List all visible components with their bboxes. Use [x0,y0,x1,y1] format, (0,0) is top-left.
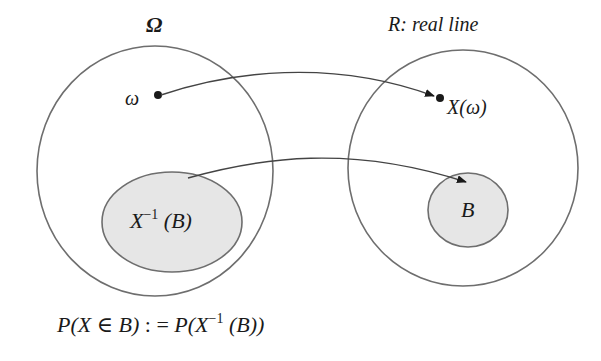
random-variable-diagram: Ω R: real line ω X(ω) X−1 (B) B P(X ∈ B)… [0,0,601,361]
formula-assign: : = [139,312,174,337]
omega-point [154,91,162,99]
formula-rhs-prefix: P(X [174,312,208,337]
preimage-label: X−1 (B) [130,208,192,232]
sample-space-label: Ω [146,14,162,36]
mapping-arrow-point [161,72,434,96]
formula-lhs: P(X ∈ B) [57,312,139,337]
preimage-label-base: X [130,208,143,233]
formula-rhs-exponent: −1 [209,311,224,326]
omega-point-label: ω [125,88,139,108]
preimage-label-arg: (B) [158,208,192,233]
x-omega-point [436,94,444,102]
probability-formula: P(X ∈ B) : = P(X−1 (B)) [57,312,264,336]
set-b-label: B [461,199,474,221]
x-omega-label: X(ω) [447,97,487,117]
real-line-circle [348,50,578,286]
diagram-canvas [0,0,601,361]
preimage-label-exponent: −1 [143,207,158,222]
formula-rhs-suffix: (B)) [223,312,264,337]
mapping-arrow-set [188,158,466,182]
real-line-label: R: real line [388,14,478,34]
